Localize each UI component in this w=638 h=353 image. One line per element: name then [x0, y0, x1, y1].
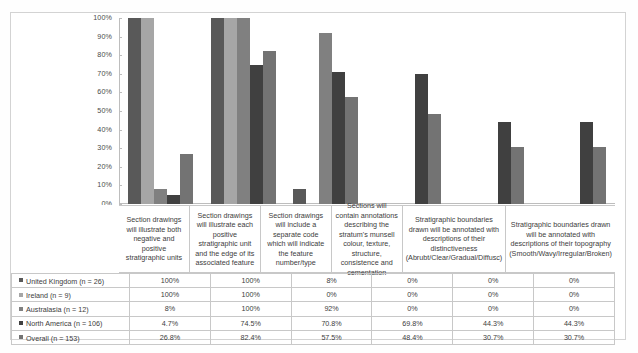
y-tick-label: 30%	[97, 145, 112, 152]
table-cell-value: 0%	[372, 288, 453, 302]
category-label-text: Sections will contain annotations descri…	[335, 201, 399, 277]
bar	[415, 74, 428, 204]
legend-series-label: Australasia (n = 12)	[26, 305, 89, 314]
legend-swatch-icon	[19, 278, 23, 282]
category-label-text: Section drawings will include a separate…	[264, 211, 328, 268]
category-label: Stratigraphic boundaries drawn will be a…	[506, 206, 615, 272]
plot-area	[119, 18, 615, 204]
table-row: Ireland (n = 9)100%100%0%0%0%0%	[12, 288, 615, 302]
bar-group	[367, 18, 450, 204]
table-cell-value: 0%	[372, 274, 453, 288]
bar	[167, 195, 180, 204]
y-tick-label: 70%	[97, 70, 112, 77]
table-cell-value: 92%	[291, 302, 372, 316]
bar	[237, 18, 250, 204]
table-cell-value: 70.8%	[291, 316, 372, 330]
legend-series-cell: Overall (n = 153)	[12, 330, 130, 344]
table-cell-value: 30.7%	[534, 330, 615, 344]
bar-slot-row	[119, 18, 202, 204]
legend-series-label: North America (n = 106)	[26, 319, 103, 328]
y-tick-label: 80%	[97, 52, 112, 59]
table-cell-value: 30.7%	[453, 330, 534, 344]
category-label-text: Stratigraphic boundaries drawn will be a…	[509, 220, 612, 258]
table-cell-value: 0%	[534, 288, 615, 302]
table-cell-value: 8%	[130, 302, 211, 316]
y-tick-mark	[119, 92, 122, 93]
table-cell-value: 0%	[453, 288, 534, 302]
bar-group	[532, 18, 615, 204]
bar	[498, 122, 511, 204]
y-tick-label: 10%	[97, 182, 112, 189]
category-label: Stratigraphic boundaries drawn will be a…	[403, 206, 507, 272]
category-label-text: Section drawings will illustrate both ne…	[122, 215, 186, 263]
table-cell-value: 44.3%	[534, 316, 615, 330]
bar-slot-row	[450, 18, 533, 204]
table-row: United Kingdom (n = 26)100%100%8%0%0%0%	[12, 274, 615, 288]
table-cell-value: 4.7%	[130, 316, 211, 330]
table-row: North America (n = 106)4.7%74.5%70.8%69.…	[12, 316, 615, 330]
table-cell-value: 82.4%	[210, 330, 291, 344]
table-cell-value: 100%	[210, 288, 291, 302]
legend-series-label: Overall (n = 153)	[26, 333, 80, 342]
bar-slot-row	[284, 18, 367, 204]
legend-series-cell: Ireland (n = 9)	[12, 288, 130, 302]
y-tick-mark	[119, 148, 122, 149]
bar	[211, 18, 224, 204]
y-tick-mark	[119, 204, 122, 205]
legend-swatch-icon	[19, 335, 23, 339]
table-cell-value: 69.8%	[372, 316, 453, 330]
table-cell-value: 44.3%	[453, 316, 534, 330]
legend-series-label: Ireland (n = 9)	[26, 291, 71, 300]
bar	[345, 97, 358, 204]
bar	[263, 51, 276, 204]
table-row: Overall (n = 153)26.8%82.4%57.5%48.4%30.…	[12, 330, 615, 344]
table-cell-value: 57.5%	[291, 330, 372, 344]
table-cell-value: 48.4%	[372, 330, 453, 344]
legend-series-label: United Kingdom (n = 26)	[26, 276, 104, 285]
table-cell-value: 100%	[210, 302, 291, 316]
y-tick-label: 20%	[97, 163, 112, 170]
y-tick-label: 40%	[97, 126, 112, 133]
category-label: Section drawings will illustrate both ne…	[119, 206, 190, 272]
legend-series-cell: North America (n = 106)	[12, 316, 130, 330]
bar-slot-row	[367, 18, 450, 204]
table-cell-value: 0%	[291, 288, 372, 302]
y-tick-label: 90%	[97, 33, 112, 40]
y-tick-mark	[119, 185, 122, 186]
legend-swatch-icon	[19, 321, 23, 325]
bar	[293, 189, 306, 204]
bar	[428, 114, 441, 204]
bar-group	[284, 18, 367, 204]
table-cell-value: 0%	[534, 274, 615, 288]
bar	[511, 147, 524, 204]
table-cell-value: 100%	[130, 288, 211, 302]
table-cell-value: 74.5%	[210, 316, 291, 330]
bar	[141, 18, 154, 204]
y-tick-mark	[119, 167, 122, 168]
category-label: Section drawings will illustrate each po…	[190, 206, 261, 272]
legend-series-cell: United Kingdom (n = 26)	[12, 274, 130, 288]
category-label: Sections will contain annotations descri…	[332, 206, 403, 272]
data-table: United Kingdom (n = 26)100%100%8%0%0%0%I…	[11, 273, 615, 339]
bar-group	[202, 18, 285, 204]
chart-container: 0%10%20%30%40%50%60%70%80%90%100% Sectio…	[0, 0, 638, 353]
bar-group	[119, 18, 202, 204]
category-label-band: Section drawings will illustrate both ne…	[119, 205, 615, 273]
bar-slot-row	[202, 18, 285, 204]
table-cell-value: 0%	[453, 274, 534, 288]
bar-groups	[119, 18, 615, 204]
category-label-text: Section drawings will illustrate each po…	[193, 211, 257, 268]
y-axis: 0%10%20%30%40%50%60%70%80%90%100%	[78, 18, 116, 204]
table-cell-value: 100%	[130, 274, 211, 288]
bar	[154, 189, 167, 204]
table-cell-value: 8%	[291, 274, 372, 288]
bar	[250, 65, 263, 204]
bar-slot-row	[532, 18, 615, 204]
y-tick-mark	[119, 111, 122, 112]
data-table-grid: United Kingdom (n = 26)100%100%8%0%0%0%I…	[11, 273, 615, 345]
table-row: Australasia (n = 12)8%100%92%0%0%0%	[12, 302, 615, 316]
legend-series-cell: Australasia (n = 12)	[12, 302, 130, 316]
legend-swatch-icon	[19, 307, 23, 311]
y-tick-label: 60%	[97, 89, 112, 96]
category-label-text: Stratigraphic boundaries drawn will be a…	[406, 215, 503, 263]
